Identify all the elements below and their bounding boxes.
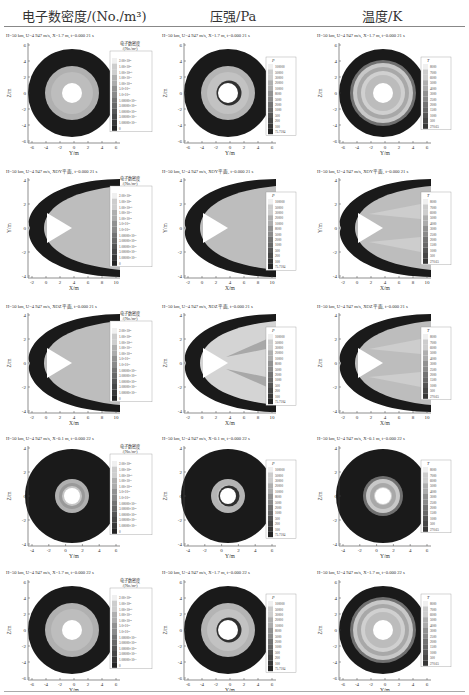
legend-swatch [112,345,117,351]
legend-level-label: 1500 [430,511,437,515]
legend-swatch [268,215,273,220]
legend-level-label: 1.00000×10¹⁴ [119,121,137,125]
legend-swatch [268,633,273,638]
legend-level-label: 2.00×10²¹ [119,462,132,466]
legend-level-label: 1.00×10¹⁹ [119,76,133,80]
legend-swatch [423,339,428,344]
axis-tick-label: -2 [333,107,338,112]
legend-swatch [268,660,273,665]
legend-level-label: 1.00000×10¹⁶ [119,369,136,373]
legend-level-label: 4000 [430,624,437,628]
axis-tick-label: 10 [114,415,120,420]
axis-tick-label: 0 [24,91,27,96]
legend-level-label: 5000 [430,618,437,622]
legend-level-label: 500 [430,119,435,123]
axis-tick-label: -4 [355,145,360,150]
legend-level-label: 2500 [430,635,437,639]
legend-swatch [112,657,117,663]
x-axis-label: Y/m [225,687,236,693]
legend-level-label: 1000 [275,108,282,112]
legend-level-label: 1000 [430,384,437,388]
axis-tick-label: 2 [398,682,401,687]
legend-swatch [112,103,117,109]
x-axis-label: Y/m [225,150,236,156]
legend-level-label: 1.00000×10¹⁵ [119,513,136,517]
legend-title: P [271,58,275,63]
x-axis-label: Y/m [380,553,391,559]
contour-plot-electron-row3: H=50 km, U=4 947 m/s, XOZ平面, t=0.000 21 … [2,303,157,431]
legend-swatch [268,64,273,69]
legend-level-label: 5.0×10¹⁷ [119,222,130,226]
legend-level-label: 75.7184 [275,265,286,269]
legend-level-label: 500 [275,651,280,655]
legend-swatch [268,123,273,128]
legend-swatch [112,243,117,249]
axis-tick-label: -4 [178,660,183,665]
legend-swatch [268,494,273,499]
legend-swatch [423,510,428,515]
legend-level-label: 270.65 [430,528,439,532]
legend-swatch [112,339,117,345]
legend-level-label: 8000 [275,629,282,633]
axis-tick-label: 4 [24,446,27,451]
legend-swatch [112,260,117,266]
legend-swatch [423,467,428,472]
legend-swatch [268,264,273,269]
axis-tick-label: 2 [335,337,338,342]
axis-tick-label: -6 [30,145,35,150]
colorbar-legend-pressure: P100000500003000020000100008000500020001… [266,192,296,270]
legend-level-label: 1.00000×10¹⁶ [119,234,136,238]
legend-swatch [112,75,117,81]
axis-tick-label: 2 [215,415,218,420]
legend-level-label: 30000 [275,211,283,215]
y-axis-label: Z/m [162,358,168,368]
legend-level-label: 5.0×10¹⁷ [119,624,130,628]
contour-plot-electron-row5: H=50 km, U=4 947 m/s, X=1.7 m, t=0.000 2… [2,570,157,695]
legend-swatch [268,666,273,671]
contour-plot-pressure-row5: H=50 km, U=4 947 m/s, X=1.7 m, t=0.000 2… [158,570,313,695]
legend-level-label: 3.00000×10¹⁴ [119,115,137,119]
legend-level-label: 500 [430,656,435,660]
legend-swatch [268,606,273,611]
legend-level-label: 20000 [275,81,283,85]
legend-swatch [112,467,117,473]
legend-swatch [268,655,273,660]
axis-tick-label: 2 [335,470,338,475]
legend-unit: /(No./m³) [122,181,138,186]
axis-tick-label: 0 [335,226,338,231]
legend-level-label: 5000 [275,233,282,237]
axis-tick-label: 4 [335,446,338,451]
legend-swatch [423,86,428,91]
legend-level-label: 1.0×10¹⁷ [119,93,130,97]
legend-level-label: 1.00000×10¹⁶ [119,636,136,640]
axis-tick-label: 6 [115,145,118,150]
axis-tick-label: -2 [186,415,191,420]
legend-swatch [112,108,117,114]
legend-swatch [112,645,117,651]
column-title-temperature: 温度/K [362,6,402,25]
legend-level-label: 5000 [430,81,437,85]
legend-swatch [268,505,273,510]
axis-tick-label: -4 [44,682,49,687]
legend-swatch [423,494,428,499]
axis-tick-label: 2 [335,202,338,207]
x-axis-label: X/m [225,285,236,291]
legend-level-label: 30000 [275,479,283,483]
legend-swatch [268,204,273,209]
legend-level-label: 1000 [275,511,282,515]
axis-tick-label: -6 [178,676,183,681]
legend-level-label: 20000 [275,618,283,622]
legend-level-label: 2.00×10²¹ [119,194,132,198]
axis-tick-label: 4 [254,548,257,553]
legend-swatch [112,500,117,506]
legend-level-label: 100000 [275,200,285,204]
legend-level-label: 500 [275,249,280,253]
axis-tick-label: 6 [271,682,274,687]
axis-tick-label: 2 [180,612,183,617]
axis-tick-label: -2 [333,644,338,649]
legend-swatch [423,505,428,510]
legend-level-label: 20000 [275,484,283,488]
legend-level-label: 100000 [275,602,285,606]
legend-level-label: 1.00×10²⁰ [119,206,133,210]
legend-swatch [112,601,117,607]
